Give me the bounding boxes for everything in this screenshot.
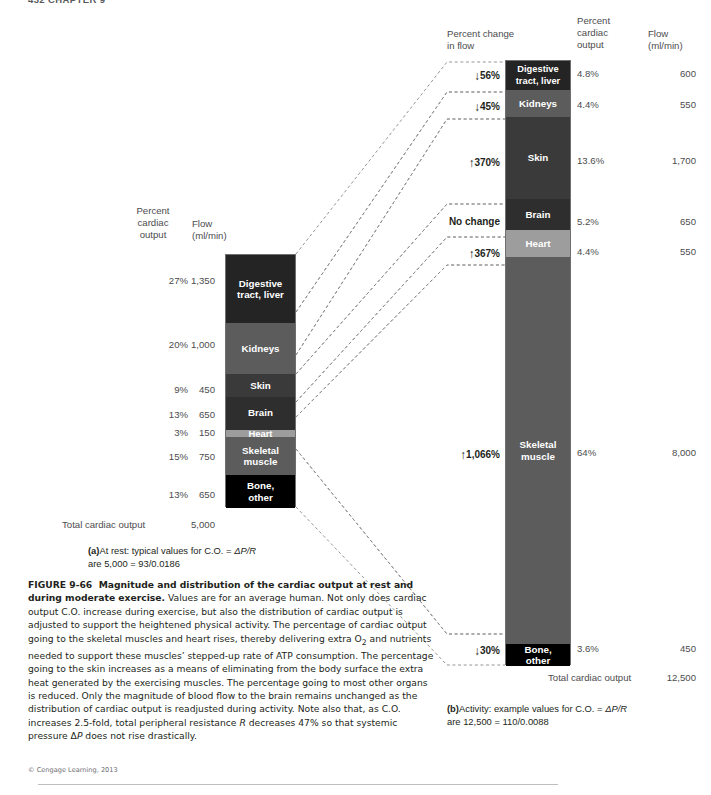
- figure-caption: FIGURE 9-66 Magnitude and distribution o…: [28, 578, 434, 743]
- rest-flow-skin: 450: [170, 384, 215, 395]
- exercise-percent-digestive: 4.8%: [577, 68, 625, 79]
- exercise-change-bone-other: ↓30%: [444, 643, 500, 657]
- rest-total-value: 5,000: [170, 519, 215, 530]
- caption-a: (a)At rest: typical values for C.O. = ΔP…: [88, 545, 338, 570]
- exercise-percent-brain: 5.2%: [577, 216, 625, 227]
- exercise-percent-kidneys: 4.4%: [577, 99, 625, 110]
- rest-segment-brain: Brain: [226, 397, 295, 430]
- caption-a-lead: (a): [88, 545, 99, 556]
- rest-total-label: Total cardiac output: [62, 519, 145, 530]
- rest-segment-heart: Heart: [226, 430, 295, 438]
- exercise-change-bone-other-value: 30%: [480, 645, 500, 656]
- rest-flow-heart: 150: [170, 427, 215, 438]
- exercise-segment-heart: Heart: [506, 230, 570, 257]
- caption-a-line1: At rest: typical values for C.O. =: [99, 545, 234, 556]
- caption-b-line2: are 12,500 = 110/0.0088: [447, 716, 549, 727]
- exercise-percent-change-header: Percent change in flow: [447, 28, 557, 52]
- rest-segment-skeletal-muscle: Skeletal muscle: [226, 437, 295, 475]
- rest-segment-bone-other: Bone, other: [226, 475, 295, 508]
- exercise-percent-skeletal-muscle: 64%: [577, 447, 625, 458]
- exercise-change-digestive-value: 56%: [480, 70, 500, 81]
- exercise-total-value: 12,500: [648, 672, 696, 683]
- exercise-percent-bone-other: 3.6%: [577, 643, 625, 654]
- exercise-segment-kidneys: Kidneys: [506, 90, 570, 117]
- rest-segment-digestive: Digestive tract, liver: [226, 255, 295, 323]
- figure-body-2: and nutrients needed to support these mu…: [28, 633, 433, 728]
- rest-percent-header: Percent cardiac output: [118, 205, 188, 242]
- rest-flow-brain: 650: [170, 409, 215, 420]
- exercise-segment-skin: Skin: [506, 117, 570, 199]
- exercise-change-skin: ↑370%: [437, 155, 500, 169]
- exercise-change-kidneys: ↓45%: [444, 99, 500, 113]
- exercise-percent-heart: 4.4%: [577, 246, 625, 257]
- exercise-change-digestive: ↓56%: [444, 68, 500, 82]
- rest-flow-kidneys: 1,000: [170, 339, 215, 350]
- rest-flow-skeletal-muscle: 750: [170, 451, 215, 462]
- exercise-flow-skin: 1,700: [648, 155, 696, 166]
- exercise-change-brain: No change: [420, 216, 500, 227]
- caption-b: (b)Activity: example values for C.O. = Δ…: [447, 703, 697, 728]
- exercise-segment-digestive: Digestive tract, liver: [506, 61, 570, 90]
- figure-page: 432 CHAPTER 9 Percent car: [0, 0, 711, 795]
- caption-b-line1: Activity: example values for C.O. =: [459, 703, 605, 714]
- arrow-down-icon: ↓: [474, 100, 480, 114]
- rest-flow-bone-other: 650: [170, 489, 215, 500]
- exercise-segment-bone-other: Bone, other: [506, 644, 570, 666]
- rest-segment-skin: Skin: [226, 374, 295, 397]
- caption-a-line2: are 5,000 = 93/0.0186: [88, 558, 180, 569]
- exercise-percent-header: Percent cardiac output: [577, 15, 647, 52]
- exercise-change-heart: ↑367%: [437, 246, 500, 260]
- exercise-change-skin-value: 370%: [474, 157, 500, 168]
- arrow-up-icon: ↑: [460, 448, 466, 462]
- exercise-flow-header: Flow (ml/min): [648, 28, 708, 52]
- exercise-change-skeletal-muscle: ↑1,066%: [426, 447, 500, 461]
- figure-body-4: does not rise drastically.: [82, 730, 196, 741]
- exercise-change-skeletal-muscle-value: 1,066%: [466, 449, 500, 460]
- rest-flow-header: Flow (ml/min): [192, 218, 262, 242]
- exercise-change-brain-value: No change: [449, 216, 500, 227]
- exercise-flow-digestive: 600: [648, 68, 696, 79]
- rest-bar: Digestive tract, liver Kidneys Skin Brai…: [225, 254, 296, 507]
- arrow-up-icon: ↑: [468, 247, 474, 261]
- exercise-bar: Digestive tract, liver Kidneys Skin Brai…: [505, 60, 571, 665]
- exercise-change-kidneys-value: 45%: [480, 101, 500, 112]
- exercise-flow-heart: 550: [648, 246, 696, 257]
- exercise-total-label: Total cardiac output: [548, 672, 631, 683]
- arrow-up-icon: ↑: [468, 156, 474, 170]
- arrow-down-icon: ↓: [474, 69, 480, 83]
- rest-flow-digestive: 1,350: [170, 275, 215, 286]
- figure-number: FIGURE 9-66: [28, 579, 92, 590]
- exercise-flow-brain: 650: [648, 216, 696, 227]
- exercise-flow-kidneys: 550: [648, 99, 696, 110]
- exercise-segment-skeletal-muscle: Skeletal muscle: [506, 257, 570, 644]
- rest-segment-kidneys: Kidneys: [226, 323, 295, 374]
- exercise-change-heart-value: 367%: [474, 248, 500, 259]
- caption-a-formula: ΔP/R: [234, 545, 256, 556]
- copyright-credit: © Cengage Learning, 2013: [28, 766, 118, 774]
- exercise-segment-brain: Brain: [506, 199, 570, 231]
- arrow-down-icon: ↓: [474, 644, 480, 658]
- bottom-rule: [38, 784, 558, 785]
- caption-b-formula: ΔP/R: [605, 703, 627, 714]
- exercise-flow-skeletal-muscle: 8,000: [648, 447, 696, 458]
- exercise-flow-bone-other: 450: [648, 643, 696, 654]
- exercise-percent-skin: 13.6%: [577, 155, 625, 166]
- caption-b-lead: (b): [447, 703, 459, 714]
